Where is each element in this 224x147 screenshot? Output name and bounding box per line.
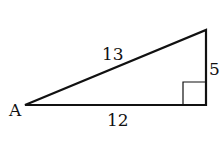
- right-angle-marker: [183, 82, 206, 105]
- vertex-a-label: A: [8, 100, 22, 120]
- triangle-diagram: A 13 5 12: [0, 0, 224, 147]
- adjacent-side-label: 12: [107, 110, 129, 130]
- opposite-side-label: 5: [209, 59, 220, 79]
- triangle-shape: [25, 30, 206, 105]
- hypotenuse-label: 13: [102, 44, 124, 64]
